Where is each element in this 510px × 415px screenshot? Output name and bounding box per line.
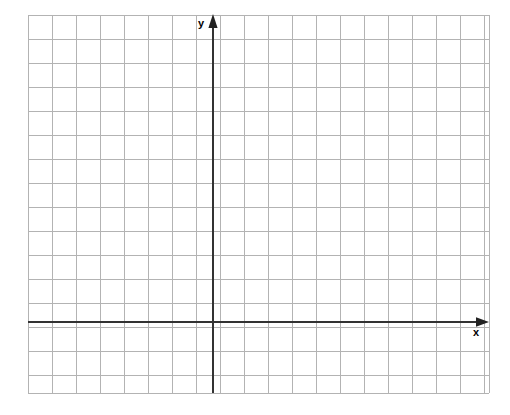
- coordinate-graph: y x: [0, 0, 510, 415]
- y-axis-label: y: [198, 18, 204, 29]
- x-axis-label: x: [473, 327, 479, 338]
- grid-svg: [0, 0, 510, 415]
- grid-lines: [28, 15, 489, 393]
- y-axis-arrowhead: [208, 14, 217, 28]
